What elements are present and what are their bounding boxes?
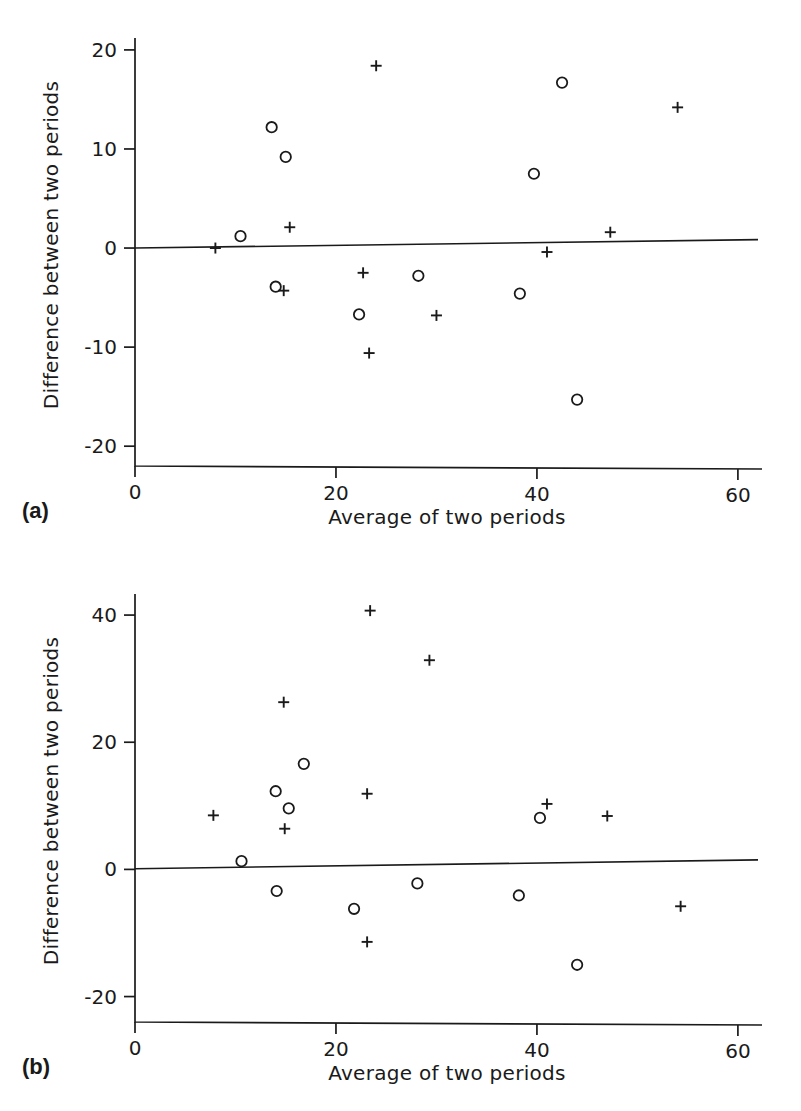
data-point-circle (515, 288, 525, 298)
data-point-circle (557, 77, 567, 87)
data-point-plus (431, 310, 442, 321)
x-tick-label: 40 (524, 1038, 549, 1062)
data-point-circle (266, 122, 276, 132)
data-point-circle (413, 271, 423, 281)
y-tick-label: 10 (92, 137, 117, 161)
data-point-plus (210, 243, 221, 254)
x-tick-label: 60 (725, 1039, 750, 1063)
data-point-plus (672, 102, 683, 113)
x-axis-label-b: Average of two periods (135, 1061, 759, 1085)
data-point-circle (572, 394, 582, 404)
y-tick-label: 0 (104, 857, 117, 881)
data-point-circle (236, 856, 246, 866)
data-point-plus (278, 285, 289, 296)
data-point-plus (541, 247, 552, 258)
y-tick-label: 20 (92, 730, 117, 754)
data-point-circle (235, 231, 245, 241)
data-point-circle (299, 759, 309, 769)
data-point-plus (675, 901, 686, 912)
x-axis-label-a: Average of two periods (135, 505, 759, 529)
x-tick-label: 40 (524, 482, 549, 506)
data-point-circle (535, 813, 545, 823)
data-point-plus (602, 810, 613, 821)
data-point-plus (362, 936, 373, 947)
x-tick-label: 0 (129, 480, 142, 504)
x-tick-label: 20 (323, 1037, 348, 1061)
data-point-circle (514, 890, 524, 900)
data-point-circle (281, 152, 291, 162)
data-point-plus (364, 348, 375, 359)
data-point-plus (541, 798, 552, 809)
panel-tag-b: (b) (22, 1054, 50, 1080)
data-point-plus (284, 222, 295, 233)
panel-b: 40200-200204060 Difference between two p… (0, 556, 801, 1101)
data-point-circle (412, 878, 422, 888)
y-tick-label: -10 (84, 335, 117, 359)
y-tick-label: 0 (104, 236, 117, 260)
scatter-plot-b: 40200-200204060 (0, 556, 801, 1101)
data-point-circle (284, 803, 294, 813)
scatter-plot-a: 20100-10-200204060 (0, 0, 801, 545)
data-point-plus (279, 823, 290, 834)
panel-a: 20100-10-200204060 Difference between tw… (0, 0, 801, 545)
data-point-circle (354, 309, 364, 319)
y-tick-label: 40 (92, 603, 117, 627)
data-point-circle (529, 169, 539, 179)
data-point-plus (208, 810, 219, 821)
y-tick-label: 20 (92, 38, 117, 62)
x-tick-label: 20 (323, 481, 348, 505)
regression-line (135, 240, 758, 248)
panel-tag-a: (a) (22, 498, 49, 524)
data-point-plus (424, 655, 435, 666)
y-tick-label: -20 (84, 985, 117, 1009)
x-tick-label: 60 (725, 483, 750, 507)
y-tick-label: -20 (84, 434, 117, 458)
data-point-circle (271, 886, 281, 896)
data-point-plus (278, 697, 289, 708)
data-point-circle (349, 904, 359, 914)
data-point-plus (358, 267, 369, 278)
data-point-circle (572, 960, 582, 970)
data-point-plus (605, 227, 616, 238)
y-axis-label-a: Difference between two periods (34, 10, 68, 480)
data-point-plus (365, 605, 376, 616)
x-tick-label: 0 (129, 1036, 142, 1060)
y-axis-label-b: Difference between two periods (34, 566, 68, 1036)
regression-line (135, 860, 758, 869)
data-point-circle (270, 786, 280, 796)
data-point-plus (362, 788, 373, 799)
data-point-plus (371, 60, 382, 71)
